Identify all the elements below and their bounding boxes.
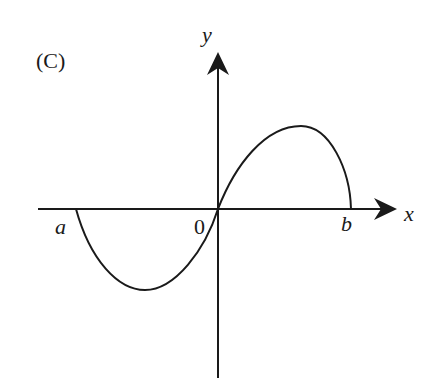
a-label: a — [55, 216, 66, 238]
x-axis-label: x — [404, 203, 414, 225]
figure-label: (C) — [36, 50, 65, 72]
graph — [0, 0, 439, 389]
origin-label: 0 — [194, 216, 205, 238]
b-label: b — [341, 213, 352, 235]
y-axis-label: y — [202, 24, 212, 46]
